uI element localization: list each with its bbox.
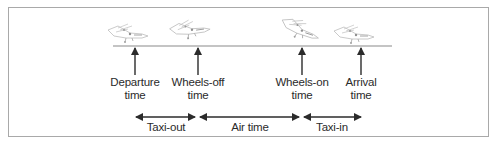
event-label-departure: Departure: [110, 76, 159, 88]
event-sublabel-wheels-off: time: [188, 89, 209, 101]
event-label-wheels-on: Wheels-on: [275, 76, 328, 88]
interval-label-air-time: Air time: [231, 121, 268, 133]
airplane-icon-wheels-off: [169, 17, 211, 41]
interval-label-taxi-in: Taxi-in: [316, 121, 348, 133]
event-label-wheels-off: Wheels-off: [172, 76, 226, 88]
airplane-icon-departure: [108, 24, 148, 43]
event-sublabel-wheels-on: time: [292, 89, 313, 101]
event-sublabel-arrival: time: [351, 89, 372, 101]
event-sublabel-departure: time: [125, 89, 146, 101]
airplane-icon-arrival: [334, 25, 374, 44]
event-label-arrival: Arrival: [345, 76, 376, 88]
interval-label-taxi-out: Taxi-out: [147, 121, 187, 133]
airplane-icon-wheels-on: [278, 14, 322, 44]
flight-timeline-diagram: Departure time Wheels-off time Wheels-on…: [0, 0, 498, 144]
